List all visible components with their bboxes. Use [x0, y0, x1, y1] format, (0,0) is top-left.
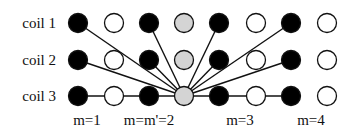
- coupling-line: [78, 23, 184, 96]
- mode-label: m=1: [73, 112, 101, 128]
- mode-label: m=4: [297, 112, 325, 128]
- black-node: [140, 14, 159, 33]
- mode-labels: m=1m=m'=2m=3m=4: [73, 112, 325, 128]
- black-node: [282, 14, 301, 33]
- white-node: [318, 51, 337, 70]
- black-node: [210, 14, 229, 33]
- gray-node: [175, 14, 194, 33]
- black-node: [69, 51, 88, 70]
- coupling-line: [78, 60, 184, 96]
- coupling-line: [184, 60, 291, 96]
- white-node: [247, 87, 266, 106]
- row-labels: coil 1coil 2coil 3: [22, 15, 56, 104]
- coil-coupling-diagram: coil 1coil 2coil 3 m=1m=m'=2m=3m=4: [0, 0, 357, 132]
- white-node: [318, 87, 337, 106]
- black-node: [140, 51, 159, 70]
- white-node: [105, 14, 124, 33]
- black-node: [210, 51, 229, 70]
- white-node: [105, 87, 124, 106]
- row-label: coil 3: [22, 88, 56, 104]
- white-node: [318, 14, 337, 33]
- white-node: [247, 51, 266, 70]
- row-label: coil 2: [22, 52, 56, 68]
- mode-label: m=m'=2: [124, 112, 174, 128]
- black-node: [210, 87, 229, 106]
- coil-nodes: [69, 14, 337, 106]
- white-node: [105, 51, 124, 70]
- black-node: [282, 87, 301, 106]
- black-node: [69, 14, 88, 33]
- mode-label: m=3: [226, 112, 254, 128]
- gray-node: [175, 51, 194, 70]
- white-node: [247, 14, 266, 33]
- coupling-line: [184, 23, 291, 96]
- row-label: coil 1: [22, 15, 56, 31]
- gray-node: [175, 87, 194, 106]
- black-node: [69, 87, 88, 106]
- black-node: [282, 51, 301, 70]
- black-node: [140, 87, 159, 106]
